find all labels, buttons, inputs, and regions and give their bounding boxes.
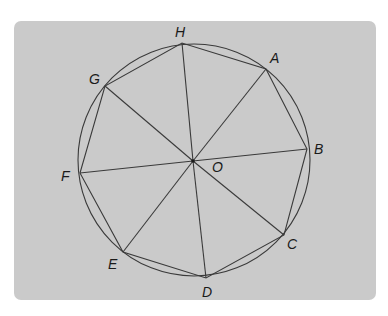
vertex-label-a: A <box>269 50 279 66</box>
center-label-o: O <box>212 159 223 175</box>
radius-oe <box>123 161 193 252</box>
vertex-label-b: B <box>314 141 323 157</box>
radius-oa <box>193 69 266 161</box>
radius-oc <box>193 161 284 235</box>
radius-og <box>105 86 193 161</box>
radius-ob <box>193 149 307 161</box>
vertex-label-e: E <box>108 256 118 272</box>
radius-oh <box>182 43 193 161</box>
vertex-label-h: H <box>175 24 186 40</box>
center-point-o <box>191 159 195 163</box>
vertex-label-g: G <box>89 71 100 87</box>
radius-od <box>193 161 206 278</box>
vertex-label-d: D <box>202 284 212 300</box>
radius-of <box>80 161 193 173</box>
octagon-diagram: ABCDEFGH O <box>0 0 388 316</box>
vertex-label-f: F <box>61 168 71 184</box>
vertex-label-c: C <box>287 236 298 252</box>
